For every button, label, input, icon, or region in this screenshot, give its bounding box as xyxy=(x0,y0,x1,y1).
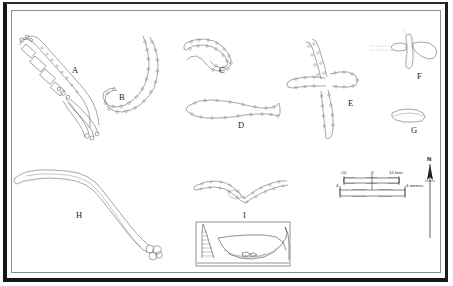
scale-metres-right-label: 4 metres xyxy=(406,184,423,188)
feature-label-C: C xyxy=(219,66,225,75)
feature-label-H: H xyxy=(76,211,82,220)
feature-label-E: E xyxy=(348,99,353,108)
north-arrow-label: N xyxy=(427,156,431,162)
scale-feet-right-label: 10 feet xyxy=(389,171,402,175)
feature-label-F: F xyxy=(417,72,422,81)
figure-root: A B C D E F G H I -10 0 10 feet 4 4 metr… xyxy=(0,0,453,286)
feature-label-G: G xyxy=(411,126,417,135)
scale-feet-center-label: 0 xyxy=(371,171,373,175)
feature-label-B: B xyxy=(119,93,125,102)
scale-metres-left-label: 4 xyxy=(336,184,338,188)
scale-feet-left-label: -10 xyxy=(340,171,346,175)
feature-label-D: D xyxy=(238,121,244,130)
figure-inner-border xyxy=(11,10,441,273)
feature-label-I: I xyxy=(243,211,246,220)
feature-label-A: A xyxy=(72,66,78,75)
